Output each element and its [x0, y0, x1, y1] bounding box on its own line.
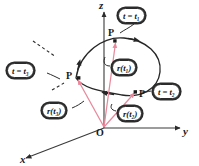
dashed-tangent-lower: [52, 83, 64, 90]
leader-r-t3: [72, 101, 84, 108]
point-label-t2: P: [139, 89, 145, 99]
callout-r-of-t1: r(t₁): [112, 60, 136, 75]
callout-t-equals-t2: t = t₂: [153, 84, 180, 99]
leader-t1: [120, 24, 134, 33]
callout-r-t1-text: r(t₁): [117, 63, 131, 73]
callout-t1-text: t = t₁: [123, 11, 140, 21]
figure-canvas: [0, 0, 199, 166]
callout-t-equals-t1: t = t₁: [118, 8, 145, 23]
dashed-tangent-upper: [33, 41, 56, 57]
leader-r-t2: [111, 104, 116, 111]
callout-t2-text: t = t₂: [158, 87, 175, 97]
space-curve-figure: z y x O P P P t = t₁ t = t₂ t = t₃ r(t₁)…: [0, 0, 199, 166]
y-axis-label: y: [183, 126, 188, 137]
origin-label: O: [96, 128, 104, 138]
leader-r-t1: [104, 57, 110, 66]
point-dot-t2: [134, 90, 137, 93]
x-axis: [26, 128, 104, 158]
leader-t3: [47, 73, 60, 79]
callout-t3-text: t = t₃: [12, 66, 29, 76]
callout-t-equals-t3: t = t₃: [7, 63, 34, 78]
point-label-t3: P: [66, 71, 72, 81]
point-dot-t1: [113, 39, 116, 42]
z-axis-label: z: [99, 0, 103, 11]
point-dot-t3: [77, 76, 80, 79]
vector-r-of-t3: [78, 80, 104, 127]
callout-r-t3-text: r(t₃): [47, 106, 61, 116]
x-axis-label: x: [20, 154, 26, 165]
point-label-t1: P: [108, 28, 114, 38]
callout-r-t2-text: r(t₂): [123, 109, 137, 119]
callout-r-of-t2: r(t₂): [118, 106, 142, 121]
callout-r-of-t3: r(t₃): [42, 103, 66, 118]
vector-r-of-t1: [104, 43, 116, 127]
